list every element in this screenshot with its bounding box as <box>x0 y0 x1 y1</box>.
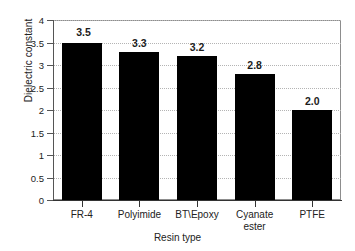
bar-value-label: 3.3 <box>132 37 147 49</box>
bar[interactable] <box>119 52 159 201</box>
y-axis-tick <box>47 200 53 201</box>
bar[interactable] <box>62 43 102 201</box>
y-axis-tick <box>47 88 53 89</box>
x-axis-title: Resin type <box>0 232 355 243</box>
y-axis-tick <box>47 133 53 134</box>
y-axis-tick-label: 2 <box>4 105 44 116</box>
category-label-line: PTFE <box>299 209 325 220</box>
y-axis-tick-label: 4 <box>4 15 44 26</box>
y-axis-tick-label: 0 <box>4 195 44 206</box>
bar[interactable] <box>292 110 332 200</box>
dielectric-constant-bar-chart: Dielectric constant 00.511.522.533.54 3.… <box>0 0 355 251</box>
x-axis-tick <box>139 201 140 207</box>
bar[interactable] <box>177 56 217 200</box>
y-axis-tick <box>47 110 53 111</box>
x-axis-tick <box>197 201 198 207</box>
x-axis-category-label: PTFE <box>299 209 325 221</box>
category-label-line: Polyimide <box>118 209 161 220</box>
x-axis-category-label: BT\Epoxy <box>175 209 218 221</box>
x-axis-category-label: FR-4 <box>71 209 93 221</box>
y-axis-tick <box>47 43 53 44</box>
x-axis-tick <box>255 201 256 207</box>
y-axis-tick-label: 1.5 <box>4 127 44 138</box>
x-axis-tick <box>312 201 313 207</box>
bar-value-label: 2.0 <box>305 95 320 107</box>
x-axis-tick <box>82 201 83 207</box>
y-axis-tick-label: 3.5 <box>4 37 44 48</box>
y-axis-tick-label: 0.5 <box>4 172 44 183</box>
bar[interactable] <box>235 74 275 200</box>
category-label-line: FR-4 <box>71 209 93 220</box>
y-axis-tick <box>47 20 53 21</box>
gridline <box>54 20 341 21</box>
x-axis-category-label: Polyimide <box>118 209 161 221</box>
y-axis-tick-label: 2.5 <box>4 82 44 93</box>
y-axis-tick <box>47 65 53 66</box>
y-axis-tick <box>47 155 53 156</box>
y-axis-tick <box>47 178 53 179</box>
bar-value-label: 3.2 <box>190 41 205 53</box>
bar-value-label: 3.5 <box>76 26 91 38</box>
category-label-line: Cyanate <box>236 209 273 220</box>
bar-value-label: 2.8 <box>247 59 262 71</box>
category-label-line: BT\Epoxy <box>175 209 218 220</box>
y-axis-tick-label: 1 <box>4 150 44 161</box>
x-axis-category-label: Cyanateester <box>236 209 273 232</box>
category-label-line: ester <box>236 221 273 233</box>
y-axis-tick-label: 3 <box>4 60 44 71</box>
